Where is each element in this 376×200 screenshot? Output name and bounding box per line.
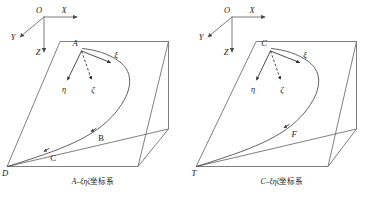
caption-left-suffix: 坐标系 bbox=[90, 176, 114, 186]
eta-vector-right bbox=[257, 51, 271, 80]
local-frame-right: ξ η ζ bbox=[251, 51, 307, 95]
figure-root: O X Y Z B C D A bbox=[0, 0, 376, 200]
global-axes-left: O X Y Z bbox=[11, 6, 77, 57]
eta-vector-left bbox=[68, 51, 82, 80]
apex-label-a-left: A bbox=[71, 38, 78, 48]
path-arrow-c-left bbox=[45, 149, 49, 151]
origin-label-left: O bbox=[36, 6, 42, 15]
xi-vector-left bbox=[82, 51, 111, 63]
caption-right: C–ξηζ坐标系 bbox=[261, 176, 304, 186]
z-axis-label-right: Z bbox=[224, 48, 229, 57]
caption-right-suffix: 坐标系 bbox=[279, 176, 303, 186]
y-axis-label-right: Y bbox=[199, 33, 205, 42]
apex-label-c-right: C bbox=[261, 38, 267, 48]
z-axis-label-left: Z bbox=[36, 48, 41, 57]
local-frame-left: ξ η ζ bbox=[62, 51, 118, 95]
x-axis-label-left: X bbox=[60, 6, 67, 15]
path-marker-f-right: F bbox=[285, 125, 297, 140]
xi-vector-right bbox=[271, 51, 300, 63]
eta-label-right: η bbox=[251, 85, 255, 94]
panel-right: O X Y Z F T C ξ η ζ bbox=[192, 6, 357, 186]
zeta-vector-right bbox=[271, 51, 281, 80]
path-marker-b-left: B bbox=[92, 129, 104, 144]
zeta-label-left: ζ bbox=[91, 86, 95, 95]
point-label-b-left: B bbox=[98, 133, 104, 143]
xi-label-right: ξ bbox=[303, 51, 307, 60]
trajectory-curve-right bbox=[197, 49, 319, 167]
xi-label-left: ξ bbox=[114, 51, 118, 60]
panel-left: O X Y Z B C D A bbox=[1, 6, 169, 186]
trajectory-curve-left bbox=[8, 49, 130, 167]
y-axis-line-left bbox=[20, 17, 44, 37]
coordinate-systems-diagram: O X Y Z B C D A bbox=[0, 0, 376, 200]
path-arrow-f-right bbox=[285, 125, 289, 128]
prism-diagonal-edge-left bbox=[8, 129, 169, 167]
origin-label-right: O bbox=[224, 6, 230, 15]
y-axis-line-right bbox=[208, 17, 232, 37]
prism-body-right bbox=[197, 42, 357, 167]
prism-body-left bbox=[8, 42, 169, 167]
corner-label-d-left: D bbox=[1, 168, 9, 178]
point-label-c-left: C bbox=[50, 153, 56, 163]
corner-label-t-right: T bbox=[192, 168, 198, 178]
zeta-label-right: ζ bbox=[280, 86, 284, 95]
global-axes-right: O X Y Z bbox=[199, 6, 265, 57]
caption-left: A–ξηζ坐标系 bbox=[71, 176, 115, 186]
y-axis-label-left: Y bbox=[11, 33, 17, 42]
point-label-f-right: F bbox=[290, 129, 297, 139]
x-axis-label-right: X bbox=[248, 6, 255, 15]
zeta-vector-left bbox=[82, 51, 92, 80]
eta-label-left: η bbox=[62, 85, 66, 94]
